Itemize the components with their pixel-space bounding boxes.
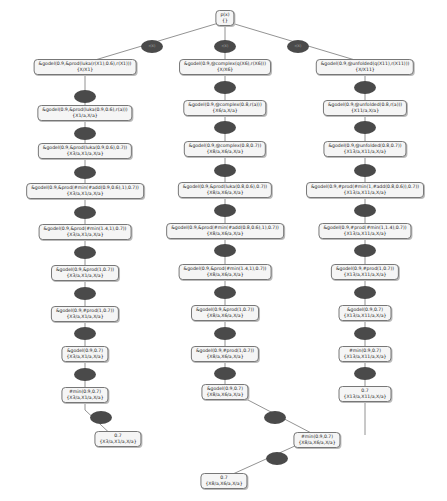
tree-node[interactable]: &godel(0.9,&prod(luka(r(X1),0.6),r(X1)))…: [34, 59, 137, 75]
edge-ellipse: [354, 367, 376, 380]
tree-node[interactable]: &godel(0.9,&prod(luka(0.8,0.6),0.7)){X8/…: [178, 182, 272, 198]
node-substitution: {X13/a,X11/a,X/a}: [344, 354, 387, 360]
tree-node[interactable]: &godel(0.9,&prod(luka(0.9,0.6),0.7)){X3/…: [38, 143, 132, 159]
tree-node[interactable]: &godel(0.9,@unfolded(0.8,0.7)){X13/a,X11…: [323, 141, 406, 157]
edge-ellipse: [74, 368, 96, 381]
tree-node[interactable]: 0.7{X13/a,X11/a,X/a}: [339, 386, 392, 402]
edge-ellipse: [214, 327, 236, 340]
node-substitution: {X/X1}: [39, 67, 132, 73]
edge-ellipse: [354, 121, 376, 134]
root-node[interactable]: p(x) {}: [215, 10, 234, 26]
node-substitution: {X8/a,X6/a,X/a}: [298, 440, 335, 446]
node-substitution: {}: [220, 18, 229, 24]
edge-ellipse: [354, 327, 376, 340]
tree-node[interactable]: &godel(0.9,&prod(#min(1.4,1),0.7)){X3/a,…: [39, 224, 132, 240]
tree-node[interactable]: &godel(0.9,0.7){X3/a,X1/a,X/a}: [61, 346, 108, 362]
node-substitution: {X13/a,X11/a,X/a}: [344, 313, 387, 319]
tree-node[interactable]: #min(0.9,0.7){X8/a,X6/a,X/a}: [293, 432, 340, 448]
node-substitution: {X/X6}: [184, 67, 266, 73]
node-substitution: {X8/a,X6/a,X/a}: [171, 231, 279, 237]
edge-ellipse: [264, 411, 286, 424]
node-substitution: {X8/a,X6/a,X/a}: [184, 272, 267, 278]
edge-ellipse: [74, 206, 96, 219]
edge-ellipse: r(X): [141, 40, 163, 53]
edge-ellipse: [74, 166, 96, 179]
edge-ellipse: [354, 204, 376, 217]
tree-node[interactable]: &godel(0.9,#prod(#min(1,1.4),0.7)){X13/a…: [318, 223, 411, 239]
tree-node[interactable]: 0.7{X3/a,X1/a,X/a}: [94, 431, 141, 447]
tree-node[interactable]: &godel(0.9,&prod(luka(0.9,0.6),r(a))){X1…: [37, 105, 132, 121]
tree-node[interactable]: #min(0.9,0.7){X3/a,X1/a,X/a}: [61, 387, 108, 403]
node-substitution: {X/X11}: [321, 67, 409, 73]
node-substitution: {X8/a,X6/a,X/a}: [196, 313, 254, 319]
edge-ellipse: [214, 367, 236, 380]
edge-ellipse: [214, 244, 236, 257]
edge-ellipse: r(X): [287, 40, 309, 53]
tree-node[interactable]: &godel(0.9,@complex(0.8,r(a))){X6/a,X/a}: [183, 100, 266, 116]
edge-ellipse: [74, 127, 96, 140]
node-substitution: {X8/a,X6/a,X/a}: [183, 190, 267, 196]
edge-ellipse: [214, 164, 236, 177]
node-substitution: {X13/a,X11/a,X/a}: [328, 149, 401, 155]
node-substitution: {X1/a,X/a}: [42, 113, 127, 119]
node-substitution: {X6/a,X/a}: [188, 108, 261, 114]
edge-ellipse: [74, 327, 96, 340]
edge-ellipse: [214, 121, 236, 134]
node-substitution: {X8/a,X6/a,X/a}: [205, 481, 242, 487]
edge-ellipse: [354, 164, 376, 177]
tree-node[interactable]: &godel(0.9,&prod(#min(#add(0.8,0.6),1),0…: [166, 223, 284, 239]
tree-node[interactable]: &godel(0.9,0.7){X13/a,X11/a,X/a}: [339, 305, 392, 321]
node-substitution: {X3/a,X1/a,X/a}: [56, 273, 114, 279]
tree-node[interactable]: &godel(0.9,#prod(1,0.7)){X13/a,X11/a,X/a…: [331, 264, 399, 280]
tree-node[interactable]: &godel(0.9,@unfolded(0.8,r(a))){X11/a,X/…: [323, 100, 407, 116]
node-substitution: {X8/a,X6/a,X/a}: [206, 392, 243, 398]
edge-ellipse: [214, 286, 236, 299]
tree-node[interactable]: &godel(0.9,&prod(#min(1.4,1),0.7)){X8/a,…: [179, 264, 272, 280]
node-substitution: {X3/a,X1/a,X/a}: [99, 439, 136, 445]
node-substitution: {X3/a,X1/a,X/a}: [66, 395, 103, 401]
edge-ellipse: [214, 81, 236, 94]
edge-ellipse: [74, 246, 96, 259]
edge-ellipse: r(X): [214, 40, 236, 53]
edge-ellipse: [266, 452, 288, 465]
edge-ellipse: [354, 286, 376, 299]
node-substitution: {X13/a,X11/a,X/a}: [311, 190, 419, 196]
edge-ellipse: [214, 204, 236, 217]
edge-ellipse: [74, 287, 96, 300]
tree-node[interactable]: &godel(0.9,0.7){X8/a,X6/a,X/a}: [201, 384, 248, 400]
tree-node[interactable]: &godel(0.9,@unfolded(q(X11),r(X11))){X/X…: [316, 59, 414, 75]
node-substitution: {X3/a,X1/a,X/a}: [56, 314, 114, 320]
node-substitution: {X3/a,X1/a,X/a}: [66, 354, 103, 360]
tree-node[interactable]: &godel(0.9,&prod(#min(#add(0.9,0.6),1),0…: [26, 183, 144, 199]
tree-node[interactable]: &godel(0.9,#prod(1,0.7)){X8/a,X6/a,X/a}: [191, 346, 259, 362]
tree-node[interactable]: &godel(0.9,#prod(1,0.7)){X3/a,X1/a,X/a}: [51, 306, 119, 322]
edge-ellipse: [354, 244, 376, 257]
tree-node[interactable]: &godel(0.9,&prod(1,0.7)){X3/a,X1/a,X/a}: [51, 265, 119, 281]
node-substitution: {X3/a,X1/a,X/a}: [44, 232, 127, 238]
node-substitution: {X8/a,X6/a,X/a}: [189, 149, 261, 155]
node-substitution: {X13/a,X11/a,X/a}: [344, 394, 387, 400]
tree-node[interactable]: &godel(0.9,&prod(1,0.7)){X8/a,X6/a,X/a}: [191, 305, 259, 321]
tree-node[interactable]: &godel(0.9,@complex(0.8,0.7)){X8/a,X6/a,…: [184, 141, 266, 157]
node-substitution: {X8/a,X6/a,X/a}: [196, 354, 254, 360]
node-substitution: {X3/a,X1/a,X/a}: [43, 151, 127, 157]
node-substitution: {X11/a,X/a}: [328, 108, 402, 114]
edge-ellipse: [74, 90, 96, 103]
tree-node[interactable]: 0.7{X8/a,X6/a,X/a}: [200, 473, 247, 489]
tree-node[interactable]: #min(0.9,0.7){X13/a,X11/a,X/a}: [339, 346, 392, 362]
edge-ellipse: [90, 411, 112, 424]
node-substitution: {X3/a,X1/a,X/a}: [31, 191, 139, 197]
node-substitution: {X13/a,X11/a,X/a}: [323, 231, 406, 237]
tree-node[interactable]: &godel(0.9,#prod(#min(1,#add(0.8,0.6)),0…: [306, 182, 424, 198]
tree-node[interactable]: &godel(0.9,@complex(q(X6),r(X6))){X/X6}: [179, 59, 271, 75]
node-substitution: {X13/a,X11/a,X/a}: [336, 272, 394, 278]
edge-ellipse: [354, 81, 376, 94]
